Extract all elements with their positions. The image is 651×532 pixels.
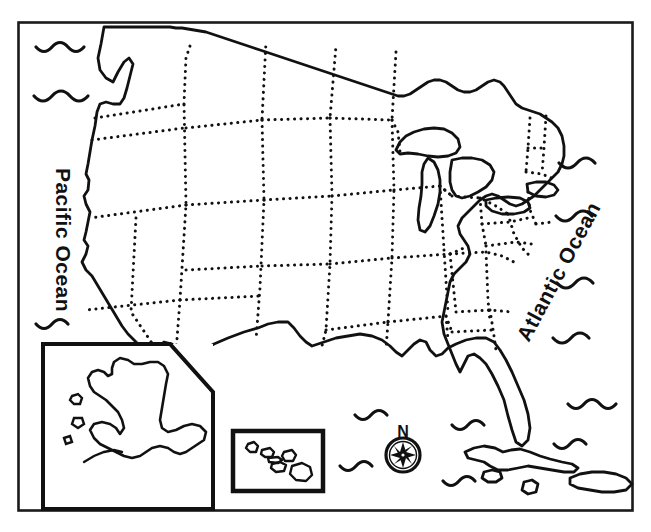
alaska-inset-border [43,344,213,509]
us-outline-map: N Pacific Ocean Atlantic Ocean [0,0,651,532]
map-container: N Pacific Ocean Atlantic Ocean [0,0,651,532]
compass-center-dot [401,453,404,456]
compass-north-label: N [397,423,409,440]
hawaii-inset-frame [233,431,323,491]
pacific-ocean-label: Pacific Ocean [52,168,75,312]
hawaii-inset [233,431,323,491]
alaska-inset [43,344,213,509]
